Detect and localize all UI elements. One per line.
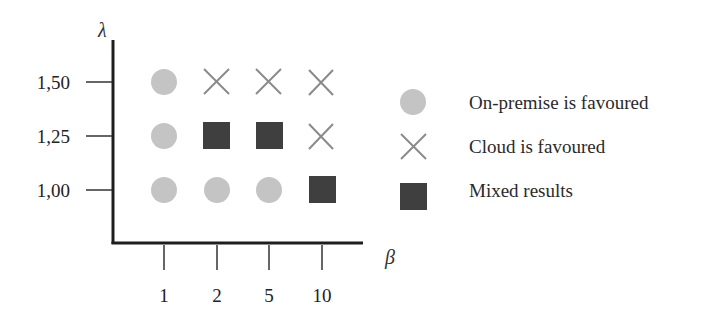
legend-cloud-icon xyxy=(401,134,426,159)
x-axis-title: β xyxy=(384,246,395,269)
legend-onprem-icon xyxy=(400,89,426,115)
y-ticks: 1,50 1,25 1,00 xyxy=(37,72,112,201)
onprem-marker xyxy=(204,177,230,203)
mixed-marker xyxy=(203,122,230,149)
legend-cloud-label: Cloud is favoured xyxy=(469,136,606,157)
data-points xyxy=(151,69,336,203)
onprem-marker xyxy=(151,123,177,149)
x-tick-label: 5 xyxy=(264,285,274,306)
y-axis-title: λ xyxy=(97,19,107,41)
y-tick-label: 1,25 xyxy=(37,126,70,147)
cloud-marker xyxy=(309,70,333,95)
cloud-marker xyxy=(309,124,333,149)
onprem-marker xyxy=(151,177,177,203)
cloud-marker xyxy=(256,69,281,94)
x-tick-label: 2 xyxy=(212,285,222,306)
x-tick-label: 1 xyxy=(159,285,169,306)
chart-canvas: λ β 1,50 1,25 1,00 1 2 5 10 xyxy=(0,0,706,315)
mixed-marker xyxy=(309,176,336,203)
legend-mixed-icon xyxy=(400,183,427,210)
onprem-marker xyxy=(256,177,282,203)
y-tick-label: 1,50 xyxy=(37,72,70,93)
cloud-marker xyxy=(204,69,229,94)
x-tick-label: 10 xyxy=(313,285,332,306)
legend: On-premise is favoured Cloud is favoured… xyxy=(400,89,649,210)
legend-mixed-label: Mixed results xyxy=(469,180,573,201)
y-tick-label: 1,00 xyxy=(37,180,70,201)
onprem-marker xyxy=(151,69,177,95)
x-ticks: 1 2 5 10 xyxy=(159,245,331,306)
legend-onprem-label: On-premise is favoured xyxy=(469,92,649,113)
mixed-marker xyxy=(256,122,283,149)
